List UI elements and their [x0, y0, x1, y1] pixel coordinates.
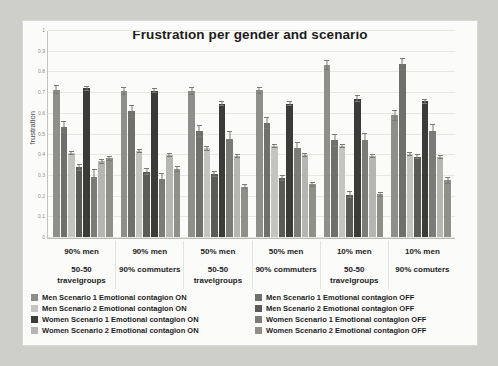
- bar[interactable]: [391, 115, 398, 237]
- bar-slot: [429, 31, 436, 237]
- bar[interactable]: [324, 65, 331, 237]
- x-axis-category: 90% men50-50 travelgroups: [48, 241, 115, 289]
- x-category-gender: 50% men: [253, 245, 320, 258]
- legend-label: Men Scenario 1 Emotional contagion ON: [42, 293, 187, 302]
- bar-slot: [324, 31, 331, 237]
- plot-frame: 00.10.20.30.40.50.60.70.80.91: [47, 31, 455, 239]
- bar-slot: [414, 31, 421, 237]
- bar[interactable]: [444, 180, 451, 237]
- bar-slot: [234, 31, 241, 237]
- bar-slot: [151, 31, 158, 237]
- bar[interactable]: [106, 158, 113, 237]
- bar[interactable]: [241, 187, 248, 237]
- legend-item-off[interactable]: Men Scenario 1 Emotional contagion OFF: [255, 293, 471, 302]
- error-bar: [229, 131, 230, 145]
- bar-slot: [211, 31, 218, 237]
- bar[interactable]: [294, 148, 301, 237]
- bar[interactable]: [128, 111, 135, 237]
- bar-groups: [49, 31, 455, 237]
- bar[interactable]: [339, 146, 346, 237]
- bar[interactable]: [256, 90, 263, 237]
- bar[interactable]: [143, 172, 150, 238]
- legend-item-off[interactable]: Women Scenario 1 Emotional contagion OFF: [255, 315, 471, 324]
- error-bar: [131, 105, 132, 118]
- y-axis-tick-label: 0.5: [38, 131, 45, 137]
- bar[interactable]: [271, 146, 278, 237]
- y-axis-tick-label: 0.7: [38, 89, 45, 95]
- legend-item-off[interactable]: Women Scenario 2 Emotional contagion OFF: [255, 326, 471, 335]
- bar[interactable]: [407, 154, 414, 237]
- bar[interactable]: [166, 155, 173, 237]
- bar[interactable]: [362, 140, 369, 237]
- bar[interactable]: [219, 104, 226, 237]
- bar[interactable]: [53, 90, 60, 237]
- legend-item-on[interactable]: Men Scenario 1 Emotional contagion ON: [31, 293, 247, 302]
- bar[interactable]: [174, 169, 181, 237]
- error-bar: [56, 85, 57, 94]
- error-bar: [394, 110, 395, 122]
- error-bar: [364, 133, 365, 147]
- bar[interactable]: [204, 148, 211, 237]
- bar[interactable]: [151, 91, 158, 237]
- bar[interactable]: [83, 88, 90, 237]
- legend-item-on[interactable]: Women Scenario 1 Emotional contagion ON: [31, 315, 247, 324]
- bar[interactable]: [121, 91, 128, 237]
- bar[interactable]: [302, 155, 309, 237]
- bar[interactable]: [264, 123, 271, 237]
- bar[interactable]: [211, 174, 218, 237]
- bar[interactable]: [331, 140, 338, 237]
- bar[interactable]: [437, 157, 444, 237]
- bar-slot: [204, 31, 211, 237]
- x-axis-category: 50% men90% commuters: [252, 241, 320, 289]
- error-bar: [372, 154, 373, 158]
- y-axis-label: frustration: [28, 131, 37, 145]
- legend-item-on[interactable]: Men Scenario 2 Emotional contagion ON: [31, 304, 247, 313]
- bar-group: [184, 31, 252, 237]
- bar[interactable]: [422, 101, 429, 237]
- error-bar: [289, 101, 290, 107]
- x-category-gender: 10% men: [321, 245, 388, 258]
- error-bar: [342, 144, 343, 148]
- bar-slot: [53, 31, 60, 237]
- bar[interactable]: [429, 131, 436, 237]
- bar[interactable]: [354, 99, 361, 237]
- bar-slot: [369, 31, 376, 237]
- bar[interactable]: [196, 131, 203, 237]
- bar[interactable]: [188, 91, 195, 237]
- bar[interactable]: [234, 156, 241, 237]
- error-bar: [94, 169, 95, 185]
- bar[interactable]: [309, 184, 316, 237]
- error-bar: [274, 144, 275, 148]
- bar-slot: [377, 31, 384, 237]
- bar[interactable]: [414, 157, 421, 237]
- bar[interactable]: [279, 178, 286, 237]
- bar-slot: [286, 31, 293, 237]
- x-axis-category: 10% men50-50 travelgroups: [320, 241, 388, 289]
- bar[interactable]: [226, 139, 233, 237]
- bar-slot: [264, 31, 271, 237]
- bar[interactable]: [91, 177, 98, 237]
- bar[interactable]: [369, 156, 376, 237]
- y-axis-tick-label: 0.4: [38, 151, 45, 157]
- legend-label: Women Scenario 1 Emotional contagion OFF: [266, 315, 426, 324]
- error-bar: [304, 153, 305, 157]
- bar[interactable]: [76, 167, 83, 237]
- bar[interactable]: [61, 127, 68, 237]
- y-axis-tick-label: 0.9: [38, 48, 45, 54]
- y-axis-tick-label: 0.6: [38, 110, 45, 116]
- error-bar: [259, 87, 260, 94]
- error-bar: [109, 156, 110, 161]
- bar[interactable]: [159, 179, 166, 237]
- bar[interactable]: [377, 194, 384, 237]
- bar[interactable]: [399, 64, 406, 237]
- bar[interactable]: [68, 153, 75, 237]
- legend-swatch-icon: [255, 294, 262, 301]
- legend-item-on[interactable]: Women Scenario 2 Emotional contagion ON: [31, 326, 247, 335]
- error-bar: [440, 155, 441, 159]
- bar[interactable]: [346, 195, 353, 237]
- y-axis-tick-label: 1: [42, 27, 45, 33]
- bar[interactable]: [286, 104, 293, 237]
- legend-item-off[interactable]: Men Scenario 2 Emotional contagion OFF: [255, 304, 471, 313]
- bar[interactable]: [98, 161, 105, 237]
- bar[interactable]: [136, 151, 143, 237]
